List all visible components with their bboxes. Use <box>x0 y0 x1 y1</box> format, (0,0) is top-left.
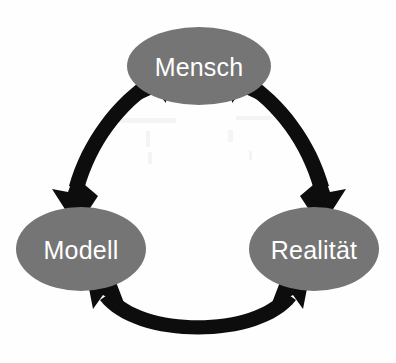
scan-artifacts <box>116 116 282 164</box>
node-mensch[interactable]: Mensch <box>127 27 271 105</box>
cycle-diagram-graphic: Mensch Modell Realität <box>0 0 396 363</box>
node-modell[interactable]: Modell <box>16 207 146 291</box>
node-realitaet-label: Realität <box>271 236 357 264</box>
cycle-diagram-canvas: Mensch Modell Realität <box>0 0 396 363</box>
node-modell-label: Modell <box>44 236 119 264</box>
node-realitaet[interactable]: Realität <box>249 207 379 291</box>
node-mensch-label: Mensch <box>155 53 244 81</box>
